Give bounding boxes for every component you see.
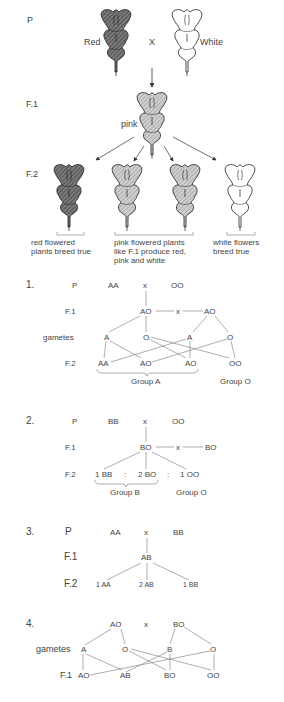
- cross-1: 1. P AA x OO F.1 AO x AO gametes A O A O…: [26, 279, 251, 386]
- arrow-to-white: [173, 137, 216, 160]
- row-label-p: P: [72, 281, 77, 290]
- offspring-genotype: AO: [185, 359, 197, 368]
- row-label-gametes: gametes: [43, 333, 74, 342]
- genotype: AO: [110, 620, 122, 629]
- offspring-genotype: AO: [140, 359, 152, 368]
- cross-number: 4.: [26, 618, 34, 629]
- generation-label-f2: F.2: [26, 169, 38, 179]
- genotype: BB: [108, 417, 119, 426]
- ratio-separator: :: [167, 470, 169, 479]
- offspring-genotype: AB: [120, 671, 131, 680]
- bracket-pink: [115, 232, 193, 235]
- red-flower-icon: [101, 10, 131, 76]
- cross-2: 2. P BB x OO F.1 BO x BO F.2 1 BB : 2 BO…: [26, 415, 217, 497]
- pink-label: pink: [121, 119, 138, 129]
- genotype: BO: [173, 620, 185, 629]
- genotype: BO: [140, 443, 152, 452]
- genotype: AO: [204, 307, 216, 316]
- white-flower-icon: [172, 10, 202, 76]
- gamete: O: [143, 333, 149, 342]
- offspring-genotype: OO: [207, 671, 219, 680]
- genetics-diagram: P Red X White F.1 pink F.2 red flowered …: [0, 0, 284, 702]
- cross-number: 3.: [26, 526, 34, 537]
- gamete: O: [122, 645, 128, 654]
- group-brace: [97, 369, 198, 376]
- row-label-f2: F.2: [64, 578, 78, 589]
- gamete: A: [187, 333, 193, 342]
- row-label-f2: F.2: [65, 359, 76, 368]
- pink-flower-icon: [137, 93, 167, 159]
- gamete: O: [227, 333, 233, 342]
- cross-symbol: X: [149, 37, 155, 47]
- group-label: Group O: [220, 377, 251, 386]
- cross-symbol: x: [143, 417, 147, 426]
- ratio-separator: :: [124, 470, 126, 479]
- f2-pink-flower-icon: [170, 165, 200, 231]
- cross-number: 1.: [26, 279, 34, 290]
- cross-symbol: x: [144, 528, 148, 537]
- gamete: A: [81, 645, 87, 654]
- genotype: OO: [171, 281, 183, 290]
- offspring-genotype: AO: [78, 671, 90, 680]
- offspring-genotype: OO: [229, 359, 241, 368]
- group-brace: [95, 480, 158, 487]
- cross-symbol: x: [144, 620, 148, 629]
- caption-red-line2: plants breed true: [31, 247, 92, 256]
- cross-4: 4. AO x BO gametes A O B O F.1 AO AB BO …: [26, 618, 219, 680]
- group-label: Group O: [176, 488, 207, 497]
- bracket-red: [57, 232, 84, 235]
- generation-label-p: P: [27, 15, 33, 25]
- caption-white-line1: white flowers: [212, 238, 259, 247]
- offspring-ratio: 1 OO: [180, 470, 199, 479]
- gamete: B: [167, 645, 172, 654]
- offspring-ratio: 1 BB: [95, 470, 112, 479]
- caption-white-line2: breed true: [213, 247, 250, 256]
- f2-red-flower-icon: [54, 165, 84, 231]
- group-label: Group B: [110, 488, 140, 497]
- offspring-genotype: BO: [164, 671, 176, 680]
- row-label-f1: F.1: [65, 443, 76, 452]
- arrow-to-pink-2: [164, 146, 173, 161]
- row-label-p: P: [72, 417, 77, 426]
- genotype: AO: [140, 307, 152, 316]
- white-label: White: [200, 37, 223, 47]
- arrow-to-red: [96, 137, 134, 160]
- offspring-ratio: 2 AB: [139, 581, 154, 588]
- f2-pink-flower-icon: [112, 165, 142, 231]
- cross-number: 2.: [26, 415, 34, 426]
- red-label: Red: [84, 37, 101, 47]
- offspring-ratio: 1 AA: [96, 581, 111, 588]
- bracket-white: [227, 232, 255, 235]
- group-label: Group A: [131, 377, 161, 386]
- row-label-f1: F.1: [60, 670, 72, 680]
- caption-pink-line1: pink flowered plants: [114, 238, 185, 247]
- genotype: AA: [108, 281, 119, 290]
- cross-symbol: x: [143, 281, 147, 290]
- cross-3: 3. P AA x BB F.1 AB F.2 1 AA 2 AB 1 BB: [26, 526, 199, 589]
- row-label-p: P: [65, 526, 72, 537]
- genotype: OO: [172, 417, 184, 426]
- caption-pink-line2: like F.1 produce red,: [114, 247, 186, 256]
- f2-white-flower-icon: [225, 165, 255, 231]
- offspring-genotype: AA: [98, 359, 109, 368]
- caption-red-line1: red flowered: [31, 238, 75, 247]
- offspring-ratio: 1 BB: [183, 581, 199, 588]
- gamete: A: [104, 333, 110, 342]
- genotype: BB: [173, 528, 184, 537]
- generation-label-f1: F.1: [26, 99, 38, 109]
- row-label-f2: F.2: [65, 470, 76, 479]
- row-label-f1: F.1: [65, 307, 76, 316]
- row-label-f1: F.1: [64, 551, 78, 562]
- row-label-gametes: gametes: [36, 644, 71, 654]
- genotype: AB: [141, 553, 152, 562]
- gamete: O: [210, 645, 216, 654]
- genotype: BO: [205, 443, 217, 452]
- cross-symbol: x: [176, 307, 180, 316]
- caption-pink-line3: pink and white: [114, 256, 166, 265]
- offspring-ratio: 2 BO: [138, 470, 156, 479]
- arrow-to-pink-1: [134, 146, 144, 161]
- cross-symbol: x: [176, 443, 180, 452]
- genotype: AA: [110, 528, 121, 537]
